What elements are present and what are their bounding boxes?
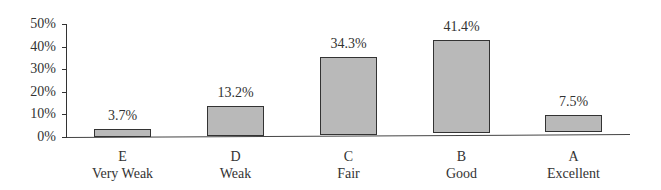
category-name: Very Weak bbox=[68, 165, 178, 182]
y-tick-mark bbox=[62, 24, 67, 25]
y-axis bbox=[66, 24, 67, 138]
y-tick-label: 20% bbox=[2, 85, 56, 99]
category-grade: C bbox=[294, 148, 404, 165]
y-tick-mark bbox=[62, 92, 67, 93]
value-label: 41.4% bbox=[422, 20, 502, 34]
category-label: CFair bbox=[294, 148, 404, 182]
y-tick-label: 10% bbox=[2, 107, 56, 121]
category-label: BGood bbox=[407, 148, 517, 182]
category-name: Good bbox=[407, 165, 517, 182]
y-tick-label: 30% bbox=[2, 62, 56, 76]
category-name: Excellent bbox=[519, 165, 629, 182]
category-name: Weak bbox=[181, 165, 291, 182]
value-label: 34.3% bbox=[309, 37, 389, 51]
category-grade: A bbox=[519, 148, 629, 165]
category-name: Fair bbox=[294, 165, 404, 182]
category-grade: B bbox=[407, 148, 517, 165]
value-label: 3.7% bbox=[83, 109, 163, 123]
y-tick-label: 40% bbox=[2, 40, 56, 54]
category-grade: E bbox=[68, 148, 178, 165]
bar-d bbox=[207, 106, 264, 136]
category-label: EVery Weak bbox=[68, 148, 178, 182]
y-tick-label: 0% bbox=[2, 130, 56, 144]
category-label: AExcellent bbox=[519, 148, 629, 182]
bar-b bbox=[433, 40, 490, 134]
value-label: 7.5% bbox=[534, 95, 614, 109]
bar-e bbox=[94, 129, 151, 137]
y-tick-mark bbox=[62, 69, 67, 70]
value-label: 13.2% bbox=[196, 86, 276, 100]
bar-c bbox=[320, 57, 377, 135]
y-tick-mark bbox=[62, 137, 67, 138]
y-tick-label: 50% bbox=[2, 17, 56, 31]
bar-chart: 0%10%20%30%40%50% 3.7%EVery Weak13.2%DWe… bbox=[0, 0, 661, 190]
category-label: DWeak bbox=[181, 148, 291, 182]
y-tick-mark bbox=[62, 114, 67, 115]
category-grade: D bbox=[181, 148, 291, 165]
y-tick-mark bbox=[62, 47, 67, 48]
bar-a bbox=[545, 115, 602, 132]
